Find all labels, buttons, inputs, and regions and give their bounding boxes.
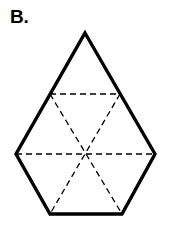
figure-panel: B. [0, 0, 169, 237]
pentagon-outline [16, 33, 155, 214]
geometric-net-diagram [0, 0, 169, 237]
